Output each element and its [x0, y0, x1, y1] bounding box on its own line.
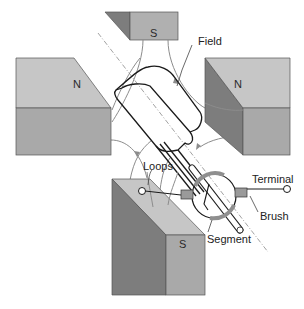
field-arrows [134, 77, 201, 157]
left-brush [181, 190, 193, 199]
field-label: Field [198, 35, 222, 47]
right-pole-label: N [234, 78, 242, 90]
top-pole-label: S [150, 27, 157, 39]
top-s-magnet: S [105, 12, 178, 40]
loops-label: Loops [143, 160, 173, 172]
terminal-label: Terminal [252, 173, 294, 185]
segment-label: Segment [207, 233, 251, 245]
left-n-magnet: N [16, 58, 111, 155]
motor-diagram: S N N [0, 0, 304, 309]
right-n-magnet: N [205, 58, 290, 155]
right-brush [235, 188, 247, 197]
bottom-pole-label: S [179, 238, 186, 250]
brush-label: Brush [260, 210, 289, 222]
left-pole-label: N [73, 78, 81, 90]
right-terminal [247, 186, 291, 193]
